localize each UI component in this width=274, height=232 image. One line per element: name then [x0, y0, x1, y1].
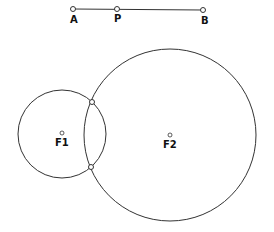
label-f1: F1 — [55, 137, 69, 148]
point-a[interactable] — [71, 7, 76, 12]
segment-ab — [73, 9, 203, 10]
point-p[interactable] — [115, 7, 120, 12]
focus-f2-point[interactable] — [168, 133, 172, 137]
focus-f1-point[interactable] — [60, 131, 64, 135]
label-b: B — [201, 15, 209, 26]
point-b[interactable] — [201, 8, 206, 13]
label-p: P — [114, 13, 121, 24]
label-a: A — [70, 14, 78, 25]
construction-diagram: A P B F1 F2 — [0, 0, 274, 232]
intersection-top[interactable] — [90, 100, 95, 105]
intersection-bottom[interactable] — [89, 165, 94, 170]
label-f2: F2 — [163, 139, 177, 150]
